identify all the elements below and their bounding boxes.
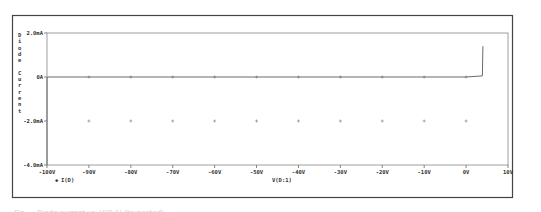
y-title-char: n bbox=[18, 101, 21, 107]
y-tick-label: 2.0mA bbox=[26, 30, 43, 36]
x-tick-label: 10V bbox=[503, 169, 514, 175]
x-tick-label: -70V bbox=[166, 169, 180, 175]
y-title-char: d bbox=[18, 51, 21, 57]
legend: ◆ I(D) bbox=[55, 177, 74, 183]
x-axis-ticks: -100V-90V-80V-70V-60V-50V-40V-30V-20V-10… bbox=[39, 165, 514, 175]
y-title-char: r bbox=[18, 82, 22, 88]
x-tick-label: -60V bbox=[208, 169, 222, 175]
plot-area bbox=[47, 33, 508, 165]
legend-label: I(D) bbox=[61, 177, 74, 183]
y-title-char: i bbox=[18, 38, 22, 44]
series-line-i-d bbox=[47, 46, 483, 165]
x-tick-label: 0V bbox=[463, 169, 470, 175]
x-tick-label: -20V bbox=[376, 169, 390, 175]
x-tick-label: -40V bbox=[292, 169, 306, 175]
chart: DiodeCurrent 2.0mA0A-2.0mA-4.0mA -100V-9… bbox=[0, 0, 541, 212]
y-title-char: r bbox=[18, 89, 22, 95]
y-title-char: o bbox=[18, 45, 22, 51]
y-title-char: D bbox=[18, 32, 22, 38]
x-tick-label: -90V bbox=[82, 169, 96, 175]
x-tick-label: -10V bbox=[418, 169, 432, 175]
x-tick-label: -30V bbox=[334, 169, 348, 175]
x-tick-label: -100V bbox=[39, 169, 56, 175]
y-title-char: e bbox=[18, 95, 22, 101]
x-tick-label: -50V bbox=[250, 169, 264, 175]
y-axis-title: DiodeCurrent bbox=[18, 32, 22, 114]
caption: Fig. ... Diode current vs. V(D:1) (trunc… bbox=[14, 209, 164, 212]
x-tick-label: -80V bbox=[124, 169, 138, 175]
grid-cross-markers bbox=[87, 76, 467, 123]
x-axis-title: V(D:1) bbox=[272, 177, 292, 183]
y-tick-label: -2.0mA bbox=[23, 118, 44, 124]
y-tick-label: 0A bbox=[36, 74, 43, 80]
y-title-char: t bbox=[18, 108, 21, 114]
y-tick-label: -4.0mA bbox=[23, 162, 44, 168]
y-title-char: e bbox=[18, 57, 22, 63]
y-axis-ticks: 2.0mA0A-2.0mA-4.0mA bbox=[23, 30, 47, 168]
legend-marker-icon: ◆ bbox=[55, 177, 59, 183]
y-title-char: C bbox=[18, 70, 21, 76]
y-title-char: u bbox=[18, 76, 21, 82]
